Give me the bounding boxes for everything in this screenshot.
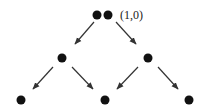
root-label: (1,0): [120, 8, 143, 23]
edge-mid-left-to-bot-left: [33, 67, 53, 89]
node-bot-center: [101, 96, 110, 105]
edge-mid-left-to-bot-center: [72, 67, 93, 89]
tree-diagram: (1,0): [0, 0, 205, 110]
node-root-b: [104, 11, 113, 20]
tree-graphic: [0, 0, 205, 110]
node-mid-left: [58, 54, 67, 63]
node-bot-right: [185, 96, 194, 105]
node-mid-right: [144, 54, 153, 63]
node-bot-left: [17, 96, 26, 105]
edge-mid-right-to-bot-center: [117, 67, 138, 89]
node-root-a: [93, 11, 102, 20]
edge-root-to-mid-left: [75, 22, 94, 44]
edge-root-to-mid-right: [116, 22, 136, 44]
edge-mid-right-to-bot-right: [158, 67, 178, 89]
